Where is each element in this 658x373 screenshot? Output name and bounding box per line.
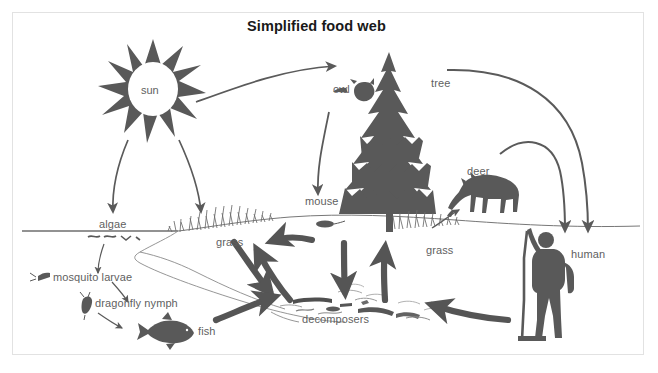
- mouse-icon: [316, 221, 345, 228]
- arrow-algae-to-mosquito: [98, 244, 104, 273]
- label-decomposers: decomposers: [302, 314, 369, 325]
- arrow-mouse-to-decomposers: [344, 243, 345, 292]
- arrow-sun-to-tree: [196, 66, 335, 102]
- arrow-sun-to-grass: [179, 140, 201, 212]
- label-dragonfly-nymph: dragonfly nymph: [95, 298, 178, 309]
- arrow-decomposers-to-grass-right: [384, 248, 385, 300]
- arrow-sun-to-algae: [113, 140, 128, 212]
- dragonfly-nymph-icon: [80, 292, 92, 320]
- label-grass-left: grass: [216, 237, 243, 248]
- label-tree: tree: [431, 78, 450, 89]
- page-title: Simplified food web: [247, 18, 386, 34]
- label-fish: fish: [198, 326, 216, 337]
- mosquito-larva-icon: [30, 273, 50, 281]
- label-human: human: [571, 249, 605, 260]
- algae-icon: [88, 236, 140, 240]
- label-mouse: mouse: [305, 196, 339, 207]
- grass-icon-left: [168, 205, 273, 232]
- arrow-human-to-decomposers: [432, 305, 508, 320]
- arrow-dragonfly-to-fish: [98, 313, 122, 328]
- fish-icon: [137, 312, 194, 350]
- label-algae: algae: [99, 219, 126, 230]
- label-owl: owl: [333, 84, 350, 95]
- arrow-decomposers-to-shore: [272, 237, 312, 241]
- label-grass-right: grass: [426, 245, 453, 256]
- arrow-owl-to-mouse: [318, 112, 329, 194]
- label-sun: sun: [141, 84, 159, 96]
- arrow-decomposers-to-grass: [257, 250, 290, 300]
- hiker-icon: [518, 228, 574, 341]
- conifer-tree-icon: [339, 52, 436, 232]
- food-web-figure: Simplified food web sun owl tree deer hu…: [0, 0, 658, 373]
- label-mosquito-larvae: mosquito larvae: [53, 272, 132, 283]
- label-deer: deer: [467, 166, 489, 177]
